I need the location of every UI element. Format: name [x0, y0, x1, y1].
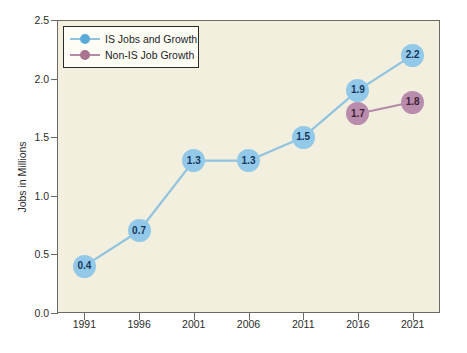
data-point-value: 0.4 — [77, 261, 91, 271]
data-point-value: 1.3 — [242, 156, 256, 166]
y-tick-label: 0.5 — [9, 248, 49, 260]
legend-label-is-jobs: IS Jobs and Growth — [105, 33, 197, 45]
legend-label-non-is-jobs: Non-IS Job Growth — [105, 49, 194, 61]
x-tick-mark — [303, 313, 304, 320]
y-tick-mark — [51, 137, 58, 138]
data-point-value: 1.8 — [406, 97, 420, 107]
x-tick-mark — [249, 313, 250, 320]
x-tick-mark — [358, 313, 359, 320]
data-point-value: 2.2 — [406, 50, 420, 60]
data-point-is-jobs-1996: 0.7 — [128, 219, 151, 242]
x-tick-mark — [139, 313, 140, 320]
data-point-is-jobs-2021: 2.2 — [401, 44, 424, 67]
data-point-value: 1.5 — [296, 132, 310, 142]
y-tick-label: 2.5 — [9, 14, 49, 26]
y-tick-mark — [51, 313, 58, 314]
x-tick-mark — [194, 313, 195, 320]
y-tick-mark — [51, 79, 58, 80]
legend-item-non-is-jobs: Non-IS Job Growth — [70, 47, 192, 63]
data-point-value: 1.7 — [351, 109, 365, 119]
x-tick-mark — [84, 313, 85, 320]
data-point-is-jobs-2011: 1.5 — [292, 126, 315, 149]
data-point-value: 1.9 — [351, 85, 365, 95]
chart-legend: IS Jobs and Growth Non-IS Job Growth — [63, 26, 199, 68]
y-tick-label: 1.5 — [9, 131, 49, 143]
y-tick-mark — [51, 254, 58, 255]
y-tick-label: 0.0 — [9, 307, 49, 319]
legend-item-is-jobs: IS Jobs and Growth — [70, 31, 192, 47]
data-point-value: 0.7 — [132, 226, 146, 236]
data-point-non-is-jobs-2021: 1.8 — [401, 91, 424, 114]
y-tick-mark — [51, 196, 58, 197]
y-tick-mark — [51, 20, 58, 21]
legend-swatch-non-is-jobs-icon — [70, 49, 100, 61]
chart-container: Jobs in Millions 0.00.51.01.52.02.519911… — [0, 0, 467, 353]
data-point-is-jobs-1991: 0.4 — [73, 255, 96, 278]
y-tick-label: 1.0 — [9, 190, 49, 202]
data-point-is-jobs-2006: 1.3 — [237, 149, 260, 172]
x-tick-mark — [413, 313, 414, 320]
legend-swatch-is-jobs-icon — [70, 33, 100, 45]
y-tick-label: 2.0 — [9, 73, 49, 85]
data-point-value: 1.3 — [187, 156, 201, 166]
